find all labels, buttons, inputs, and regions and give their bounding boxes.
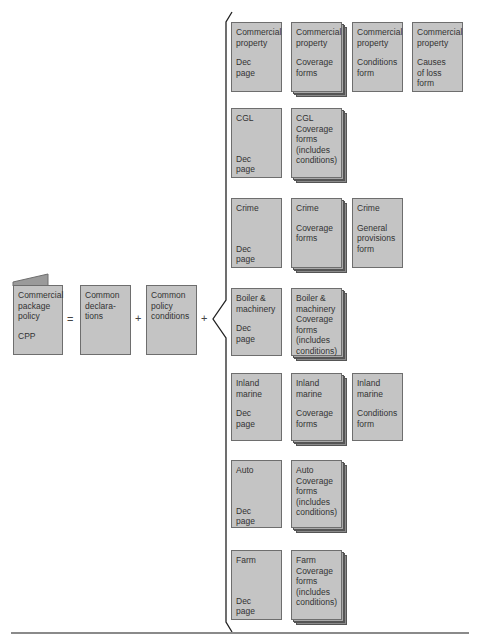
inland-marine-form-stack: Inland marineCoverage forms <box>291 373 349 447</box>
boiler-machinery-form-stack: Boiler & machinery Coverage forms (inclu… <box>291 288 349 362</box>
form-title: CGL Coverage forms (includes conditions) <box>296 113 337 166</box>
dec-title: Auto <box>236 465 277 476</box>
dec-sub: Dec page <box>236 408 277 429</box>
commercial-property-form-1: Commercial propertyCoverage forms <box>291 22 342 92</box>
crime-form-1: CrimeCoverage forms <box>291 198 342 268</box>
common-conditions-label: Common policy conditions <box>151 290 192 322</box>
dec-title: Commercial property <box>236 27 277 48</box>
common-declarations-label: Common declara- tions <box>85 290 126 322</box>
commercial-property-form-3: Commercial propertyCauses of loss form <box>412 22 463 92</box>
dec-sub: Dec page <box>236 57 277 78</box>
dec-sub: Dec page <box>236 596 277 617</box>
commercial-property-dec-page: Commercial propertyDec page <box>231 22 282 92</box>
curly-brace <box>213 12 232 632</box>
dec-title: Inland marine <box>236 378 277 399</box>
dec-title: CGL <box>236 113 277 124</box>
cgl-form-1: CGL Coverage forms (includes conditions) <box>291 108 342 178</box>
form-sub: Coverage forms <box>296 57 337 78</box>
farm-dec-page: FarmDec page <box>231 550 282 620</box>
form-sub: Causes of loss form <box>417 57 458 89</box>
bottom-rule <box>11 632 469 634</box>
form-title: Inland marine <box>357 378 398 399</box>
farm-form-1: Farm Coverage forms (includes conditions… <box>291 550 342 620</box>
common-declarations-box: Common declara- tions <box>80 285 131 355</box>
equals-sign: = <box>67 313 73 325</box>
inland-marine-form-2: Inland marineConditions form <box>352 373 403 441</box>
farm-form-stack: Farm Coverage forms (includes conditions… <box>291 550 349 626</box>
form-title: Boiler & machinery Coverage forms (inclu… <box>296 293 337 356</box>
cgl-dec-page: CGLDec page <box>231 108 282 178</box>
cpp-title: Commercial package policy <box>18 290 58 322</box>
boiler-machinery-form-1: Boiler & machinery Coverage forms (inclu… <box>291 288 342 356</box>
dec-title: Boiler & machinery <box>236 293 277 314</box>
dec-sub: Dec page <box>236 244 277 265</box>
inland-marine-dec-page: Inland marineDec page <box>231 373 282 441</box>
form-sub: Coverage forms <box>296 223 337 244</box>
crime-form-stack: CrimeCoverage forms <box>291 198 349 274</box>
inland-marine-form-1: Inland marineCoverage forms <box>291 373 342 441</box>
form-title: Commercial property <box>417 27 458 48</box>
form-title: Commercial property <box>296 27 337 48</box>
dec-title: Farm <box>236 555 277 566</box>
form-sub: Coverage forms <box>296 408 337 429</box>
auto-dec-page: AutoDec page <box>231 460 282 528</box>
commercial-property-form-2: Commercial propertyConditions form <box>352 22 403 92</box>
cpp-box: Commercial package policy CPP <box>13 285 63 355</box>
form-sub: Conditions form <box>357 408 398 429</box>
boiler-machinery-dec-page: Boiler & machineryDec page <box>231 288 282 356</box>
form-title: Farm Coverage forms (includes conditions… <box>296 555 337 608</box>
auto-form-1: Auto Coverage forms (includes conditions… <box>291 460 342 528</box>
crime-dec-page: CrimeDec page <box>231 198 282 268</box>
dec-sub: Dec page <box>236 154 277 175</box>
plus-sign-2: + <box>201 312 207 324</box>
cpp-abbr: CPP <box>18 331 58 342</box>
crime-form-2: CrimeGeneral provisions form <box>352 198 403 268</box>
dec-sub: Dec page <box>236 506 277 527</box>
form-title: Crime <box>296 203 337 214</box>
cgl-form-stack: CGL Coverage forms (includes conditions) <box>291 108 349 184</box>
dec-title: Crime <box>236 203 277 214</box>
plus-sign-1: + <box>135 312 141 324</box>
commercial-property-form-stack: Commercial propertyCoverage forms <box>291 22 349 98</box>
form-sub: Conditions form <box>357 57 398 78</box>
dec-sub: Dec page <box>236 323 277 344</box>
form-title: Inland marine <box>296 378 337 399</box>
form-title: Crime <box>357 203 398 214</box>
form-sub: General provisions form <box>357 223 398 255</box>
form-title: Auto Coverage forms (includes conditions… <box>296 465 337 518</box>
form-title: Commercial property <box>357 27 398 48</box>
auto-form-stack: Auto Coverage forms (includes conditions… <box>291 460 349 534</box>
common-conditions-box: Common policy conditions <box>146 285 197 355</box>
